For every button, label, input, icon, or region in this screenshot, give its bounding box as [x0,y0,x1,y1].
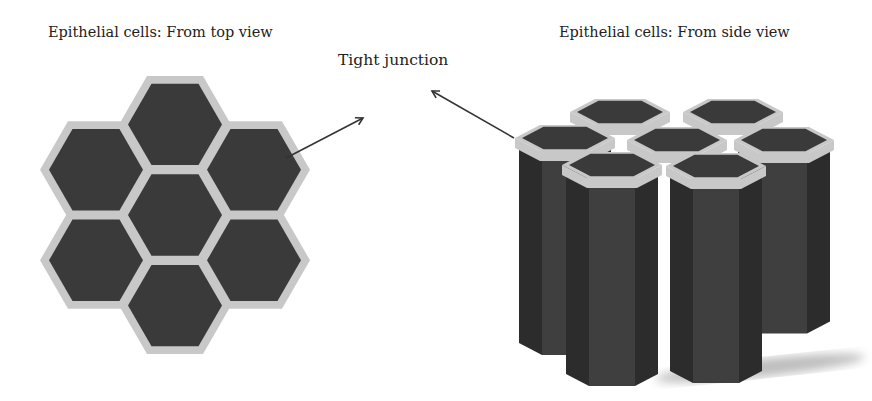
column-side-face [566,175,589,386]
arrow-to-top-view [286,118,363,158]
top-view-honeycomb [40,76,310,354]
epithelial-cell-column [562,152,662,386]
side-view-columns [515,99,834,386]
arrow-to-side-view [432,91,514,138]
epithelial-cell-column [666,153,766,383]
column-side-face [670,176,693,383]
column-side-face [635,175,658,386]
column-side-face [693,188,739,383]
column-side-face [589,187,635,386]
column-side-face [739,176,762,383]
column-side-face [761,162,807,334]
column-side-face [519,148,542,355]
epithelium-diagram [0,0,872,401]
column-side-face [807,150,830,334]
